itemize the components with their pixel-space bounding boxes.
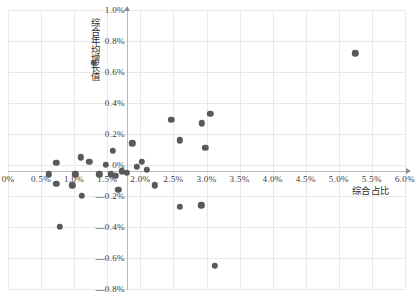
x-tick-label: 2.0% bbox=[130, 174, 150, 184]
y-tick-label: —0.6% bbox=[95, 253, 125, 263]
gridline-vertical bbox=[306, 10, 307, 289]
y-axis-line bbox=[127, 10, 128, 290]
gridline-horizontal bbox=[8, 10, 405, 11]
gridline-horizontal bbox=[8, 289, 405, 290]
x-tick-label: 2.5% bbox=[163, 174, 183, 184]
scatter-chart: 0%0.5%1.0%1.5%2.0%2.5%3.0%3.5%4.0%4.5%5.… bbox=[0, 0, 420, 298]
gridline-vertical bbox=[41, 10, 42, 289]
gridline-vertical bbox=[240, 10, 241, 289]
x-tick-label: 3.5% bbox=[230, 174, 250, 184]
y-tick-label: 0.4% bbox=[95, 98, 125, 108]
y-tick-label: 0.2% bbox=[95, 129, 125, 139]
gridline-horizontal bbox=[8, 196, 405, 197]
gridline-horizontal bbox=[8, 41, 405, 42]
x-tick-label: 6.0% bbox=[395, 174, 415, 184]
gridline-vertical bbox=[372, 10, 373, 289]
gridline-horizontal bbox=[8, 134, 405, 135]
y-tick-label: 1.0% bbox=[95, 5, 125, 15]
gridline-vertical bbox=[107, 10, 108, 289]
x-tick-label: 4.0% bbox=[263, 174, 283, 184]
gridline-vertical bbox=[405, 10, 406, 289]
gridline-vertical bbox=[8, 10, 9, 289]
y-tick-label: —0.2% bbox=[95, 191, 125, 201]
gridline-horizontal bbox=[8, 72, 405, 73]
gridline-vertical bbox=[74, 10, 75, 289]
y-tick-label: —0.8% bbox=[95, 284, 125, 294]
gridline-vertical bbox=[273, 10, 274, 289]
y-tick-label: —0.4% bbox=[95, 222, 125, 232]
x-tick-label: 0% bbox=[2, 174, 15, 184]
x-axis-title: 综合占比 bbox=[352, 186, 390, 197]
gridline-horizontal bbox=[8, 258, 405, 259]
gridline-horizontal bbox=[8, 103, 405, 104]
x-tick-label: 4.5% bbox=[296, 174, 316, 184]
gridline-vertical bbox=[173, 10, 174, 289]
x-tick-label: 5.5% bbox=[362, 174, 382, 184]
gridline-vertical bbox=[140, 10, 141, 289]
gridline-horizontal bbox=[8, 227, 405, 228]
x-tick-label: 5.0% bbox=[329, 174, 349, 184]
y-axis-title: 综合年均增长值 bbox=[89, 18, 100, 81]
x-tick-label: 3.0% bbox=[196, 174, 216, 184]
gridline-horizontal bbox=[8, 165, 405, 166]
x-axis-line bbox=[8, 171, 407, 172]
gridline-vertical bbox=[339, 10, 340, 289]
